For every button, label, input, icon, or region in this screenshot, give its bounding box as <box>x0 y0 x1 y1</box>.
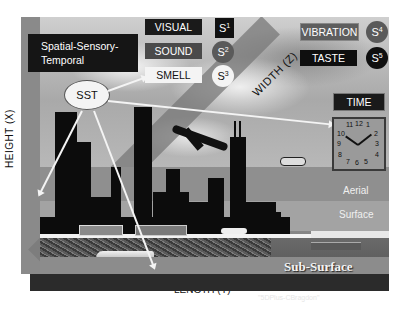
ship-icon <box>311 242 361 250</box>
surface-zone-label: Surface <box>339 209 373 220</box>
sense-s5-badge: S5 <box>366 47 388 69</box>
sound-label-box: SOUND <box>145 43 202 59</box>
helicopter-icon <box>280 157 306 166</box>
height-axis-label: HEIGHT (X) <box>4 109 15 168</box>
footer-strip <box>30 274 389 291</box>
title-text: Spatial-Sensory-Temporal <box>41 40 119 66</box>
vibration-label-box: VIBRATION <box>300 23 359 41</box>
truck-icon <box>79 225 123 236</box>
skyscraper <box>166 169 180 199</box>
antenna <box>239 121 241 139</box>
credit-text: "5DPlus-CBragdon" <box>258 294 319 301</box>
subsurface-zone-label: Sub-Surface <box>284 259 353 274</box>
sense-s4-badge: S4 <box>366 21 388 43</box>
sense-s3-badge: S3 <box>212 65 234 87</box>
sense-s2-badge: S2 <box>212 41 234 63</box>
smell-label-box: SMELL <box>145 67 202 83</box>
clock-icon: 11 12 1 10 2 9 3 8 4 7 6 5 <box>332 117 386 171</box>
car-icon <box>221 228 247 234</box>
visual-label-box: VISUAL <box>145 19 202 35</box>
time-label-box: TIME <box>333 93 385 111</box>
title-box: Spatial-Sensory-Temporal <box>28 34 138 72</box>
antenna <box>234 121 236 139</box>
clock-minute-hand <box>357 134 372 146</box>
sst-node: SST <box>64 80 110 110</box>
aerial-zone-label: Aerial <box>343 185 369 196</box>
taste-label-box: TASTE <box>300 50 357 66</box>
sense-s1-badge: S1 <box>215 18 234 38</box>
